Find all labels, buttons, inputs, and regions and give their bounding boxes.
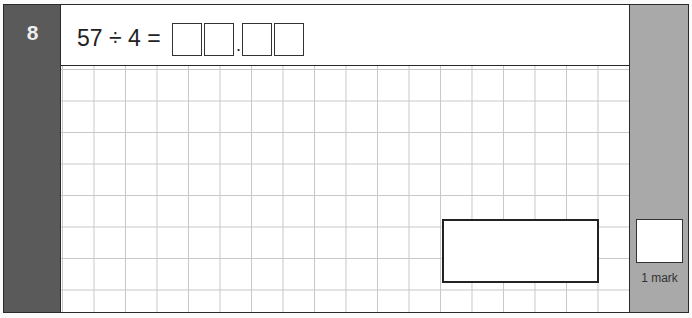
answer-digit-box-1[interactable] [172, 23, 202, 56]
answer-box[interactable] [442, 219, 599, 283]
decimal-point: . [236, 35, 241, 56]
answer-digit-box-3[interactable] [242, 23, 272, 56]
mark-box[interactable] [636, 219, 683, 263]
question-number: 8 [4, 21, 61, 45]
answer-digit-box-4[interactable] [274, 23, 304, 56]
mark-panel: 1 mark [629, 5, 688, 312]
answer-digit-box-2[interactable] [204, 23, 234, 56]
mark-label: 1 mark [630, 271, 689, 285]
question-number-bar: 8 [4, 5, 61, 312]
question-expression: 57 ÷ 4 = [77, 25, 161, 52]
question-header: 57 ÷ 4 = . [61, 5, 629, 66]
